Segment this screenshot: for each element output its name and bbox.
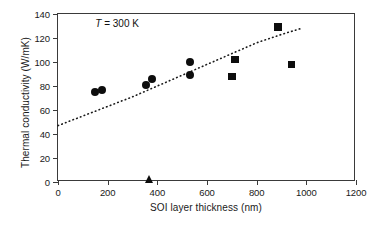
y-tick-mark (53, 110, 58, 111)
x-tick-label: 200 (100, 187, 116, 198)
chart-figure: Thermal conductivity (W/mK) SOI layer th… (0, 0, 385, 227)
data-point-square (228, 73, 236, 81)
x-tick-label: 1200 (346, 187, 367, 198)
x-tick-mark (58, 180, 59, 185)
y-tick-mark (53, 158, 58, 159)
x-tick-label: 800 (249, 187, 265, 198)
data-point-triangle (145, 175, 153, 183)
x-tick-label: 400 (150, 187, 166, 198)
y-tick-mark (53, 38, 58, 39)
y-tick-mark (53, 62, 58, 63)
y-tick-label: 120 (34, 33, 50, 44)
x-tick-mark (157, 180, 158, 185)
x-tick-label: 0 (55, 187, 60, 198)
y-tick-label: 0 (45, 177, 50, 188)
x-tick-mark (257, 180, 258, 185)
data-point-circle (148, 75, 156, 83)
x-tick-mark (306, 180, 307, 185)
x-tick-label: 1000 (296, 187, 317, 198)
data-point-square (274, 23, 282, 31)
data-point-square (288, 61, 296, 69)
y-tick-label: 20 (40, 153, 50, 164)
x-axis-title: SOI layer thickness (nm) (57, 202, 355, 213)
y-tick-mark (53, 134, 58, 135)
y-tick-label: 100 (34, 57, 50, 68)
y-tick-label: 40 (40, 129, 50, 140)
plot-area (58, 14, 354, 180)
y-axis-title: Thermal conductivity (W/mK) (20, 8, 31, 198)
y-tick-mark (53, 86, 58, 87)
y-tick-mark (53, 14, 58, 15)
trend-line (58, 14, 356, 182)
y-tick-label: 140 (34, 9, 50, 20)
plot-frame: T = 300 K 020406080100120140 02004006008… (57, 13, 355, 181)
data-point-circle (186, 71, 194, 79)
data-point-square (231, 56, 239, 64)
x-tick-label: 600 (199, 187, 215, 198)
x-tick-mark (207, 180, 208, 185)
data-point-circle (98, 86, 106, 94)
x-tick-mark (108, 180, 109, 185)
y-tick-label: 80 (40, 81, 50, 92)
y-tick-label: 60 (40, 105, 50, 116)
x-tick-mark (356, 180, 357, 185)
